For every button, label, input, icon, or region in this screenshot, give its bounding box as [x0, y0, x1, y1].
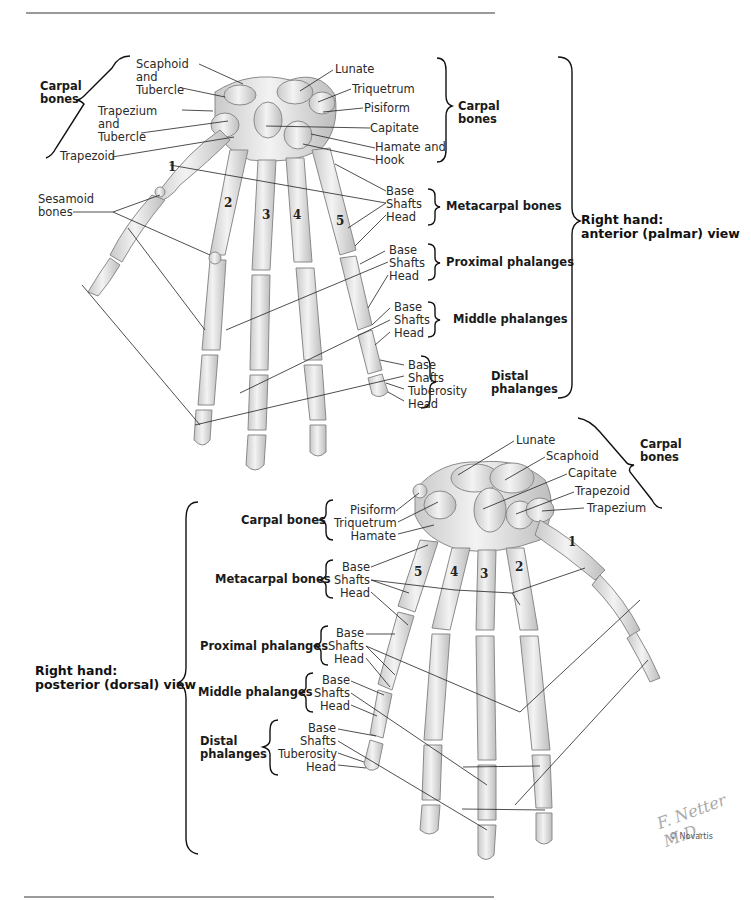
posterior-proximal-group: Proximal phalanges	[200, 640, 328, 653]
anterior-digit-5: 5	[336, 214, 344, 228]
posterior-distal-labels: Base Shafts Tuberosity Head	[278, 722, 336, 774]
posterior-digit-2: 2	[515, 560, 523, 574]
anterior-distal-group: Distal phalanges	[491, 370, 558, 396]
label-trapezoid: Trapezoid	[60, 150, 115, 163]
anterior-middle-group: Middle phalanges	[453, 313, 568, 326]
label-hamate: Hamate and Hook	[375, 141, 446, 167]
posterior-digit-4: 4	[450, 565, 458, 579]
posterior-label-lunate: Lunate	[516, 434, 555, 447]
anterior-digit-1: 1	[168, 160, 176, 174]
posterior-carpal-labels: Pisiform Triquetrum Hamate	[334, 504, 396, 543]
anterior-middle-labels: Base Shafts Head	[394, 301, 430, 340]
anterior-metacarpal-group: Metacarpal bones	[446, 200, 562, 213]
posterior-carpal-right-group: Carpal bones	[640, 438, 682, 464]
posterior-label-trapezoid: Trapezoid	[575, 485, 630, 498]
posterior-view-title: Right hand: posterior (dorsal) view	[35, 664, 196, 692]
posterior-middle-labels: Base Shafts Head	[312, 674, 350, 713]
posterior-proximal-labels: Base Shafts Head	[326, 627, 364, 666]
posterior-hand	[364, 461, 660, 859]
anterior-metacarpal-labels: Base Shafts Head	[386, 185, 422, 224]
posterior-digit-3: 3	[480, 567, 488, 581]
copyright-credit: © Novartis	[669, 832, 713, 841]
posterior-label-trapezium: Trapezium	[587, 502, 646, 515]
anterior-proximal-labels: Base Shafts Head	[389, 244, 425, 283]
posterior-distal-group: Distal phalanges	[200, 735, 267, 761]
label-capitate: Capitate	[370, 122, 419, 135]
posterior-middle-group: Middle phalanges	[198, 686, 313, 699]
anterior-view-title: Right hand: anterior (palmar) view	[581, 213, 740, 241]
label-scaphoid: Scaphoid and Tubercle	[136, 58, 189, 97]
posterior-digit-1: 1	[568, 535, 576, 549]
anterior-distal-labels: Base Shafts Tuberosity Head	[408, 359, 467, 411]
anterior-proximal-group: Proximal phalanges	[446, 256, 574, 269]
posterior-metacarpal-group: Metacarpal bones	[215, 573, 331, 586]
anterior-digit-4: 4	[293, 208, 301, 222]
anterior-carpal-left-group: Carpal bones	[40, 80, 82, 106]
posterior-label-scaphoid: Scaphoid	[546, 450, 599, 463]
posterior-digit-5: 5	[414, 565, 422, 579]
posterior-label-capitate: Capitate	[568, 467, 617, 480]
posterior-metacarpal-labels: Base Shafts Head	[330, 561, 370, 600]
label-trapezium: Trapezium and Tubercle	[98, 105, 157, 144]
label-pisiform: Pisiform	[364, 102, 410, 115]
label-triquetrum: Triquetrum	[352, 83, 415, 96]
label-sesamoid: Sesamoid bones	[38, 193, 94, 219]
anterior-carpal-right-group: Carpal bones	[458, 100, 500, 126]
posterior-carpal-left-group: Carpal bones	[241, 514, 326, 527]
anterior-digit-3: 3	[262, 208, 270, 222]
anterior-digit-2: 2	[224, 196, 232, 210]
label-lunate: Lunate	[335, 63, 374, 76]
